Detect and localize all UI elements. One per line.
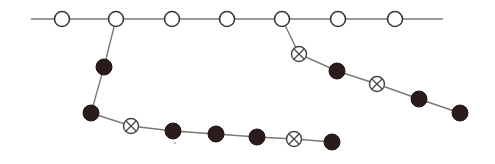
filled-node-icon [329,63,345,79]
filled-node-icon [249,129,265,145]
open-node-icon [388,12,403,27]
branching-chain-diagram [0,0,495,164]
filled-node-icon [208,126,224,142]
branch-edges [91,19,460,142]
open-node-icon [165,12,180,27]
crossed-node-icon [287,132,302,147]
crossed-node-icon [292,47,307,62]
open-node-icon [109,12,124,27]
open-node-icon [331,12,346,27]
filled-node-icon [324,134,340,150]
open-node-icon [55,12,70,27]
crossed-node-icon [370,77,385,92]
filled-node-icon [165,123,181,139]
open-node-icon [220,12,235,27]
right-branch-edge [282,19,460,113]
filled-node-icon [83,105,99,121]
open-node-icon [275,12,290,27]
filled-node-icon [452,105,468,121]
filled-node-icon [411,91,427,107]
nodes [55,12,469,151]
filled-node-icon [96,59,112,75]
crossed-node-icon [124,119,139,134]
artifact-speck [174,142,176,144]
